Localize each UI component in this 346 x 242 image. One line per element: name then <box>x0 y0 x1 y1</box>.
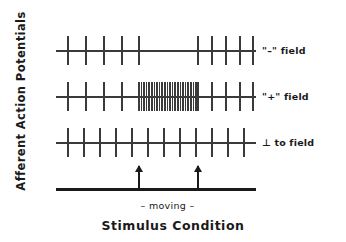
spike <box>143 82 145 111</box>
spike <box>243 128 245 157</box>
spike <box>67 128 69 157</box>
spike <box>174 82 176 111</box>
spike <box>211 128 213 157</box>
spike <box>148 82 150 111</box>
spike <box>121 36 123 65</box>
spike <box>187 82 189 111</box>
spike <box>99 128 101 157</box>
spike <box>67 36 69 65</box>
spike <box>164 82 166 111</box>
spike <box>177 82 179 111</box>
spike <box>185 82 187 111</box>
spike <box>85 82 87 111</box>
spike <box>167 82 169 111</box>
spike-train-row <box>56 80 256 114</box>
stimulus-arrow-moving-offset <box>197 166 199 188</box>
row-label: "–" field <box>262 45 306 56</box>
spike <box>146 82 148 111</box>
spike <box>67 82 69 111</box>
spike <box>121 82 123 111</box>
spike <box>182 82 184 111</box>
spike <box>197 82 199 111</box>
figure-canvas: Afferent Action Potentials – moving – St… <box>0 0 346 242</box>
spike <box>154 82 156 111</box>
spike <box>83 128 85 157</box>
spike-train-row <box>56 126 256 160</box>
spike <box>103 36 105 65</box>
spike <box>239 82 241 111</box>
spike <box>195 128 197 157</box>
spike <box>161 82 163 111</box>
spike <box>151 82 153 111</box>
spike <box>138 36 140 65</box>
spike <box>169 82 171 111</box>
y-axis-label: Afferent Action Potentials <box>14 1 28 201</box>
spike <box>138 82 140 111</box>
stimulus-bar <box>56 188 256 191</box>
spike <box>131 128 133 157</box>
spike <box>103 82 105 111</box>
moving-annotation: – moving – <box>108 200 228 211</box>
raster-plot-area <box>56 34 256 168</box>
spike <box>147 128 149 157</box>
spike <box>211 36 213 65</box>
spike <box>159 82 161 111</box>
x-axis-label: Stimulus Condition <box>0 218 346 233</box>
spike <box>193 82 195 111</box>
spike <box>141 82 143 111</box>
spike <box>85 36 87 65</box>
row-label: ⊥ to field <box>262 137 314 148</box>
stimulus-arrow-moving-onset <box>138 166 140 188</box>
spike <box>225 82 227 111</box>
spike <box>115 128 117 157</box>
spike <box>211 82 213 111</box>
spike-train-row <box>56 34 256 68</box>
trace-baseline <box>56 142 256 144</box>
spike <box>172 82 174 111</box>
spike <box>179 128 181 157</box>
spike <box>180 82 182 111</box>
spike <box>197 36 199 65</box>
spike <box>225 36 227 65</box>
spike <box>239 36 241 65</box>
spike <box>252 82 254 111</box>
spike <box>190 82 192 111</box>
spike <box>163 128 165 157</box>
spike <box>252 36 254 65</box>
spike <box>156 82 158 111</box>
row-label: "+" field <box>262 91 309 102</box>
spike <box>227 128 229 157</box>
